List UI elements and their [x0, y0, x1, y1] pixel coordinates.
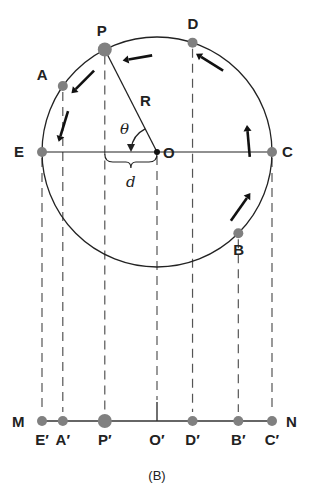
label-B: B: [233, 241, 244, 258]
label-D: D: [188, 15, 199, 32]
displacement-brace: [105, 154, 157, 168]
projected-label-C: C′: [265, 431, 280, 448]
label-N: N: [286, 413, 297, 430]
projected-point-D: [188, 416, 198, 426]
projected-label-D: D′: [185, 431, 200, 448]
label-M: M: [12, 413, 25, 430]
theta-arrowhead: [127, 144, 135, 152]
projected-point-P: [98, 414, 112, 428]
label-P: P: [97, 22, 107, 39]
projected-label-B: B′: [231, 431, 246, 448]
center-point-O: [154, 149, 160, 155]
point-C: [267, 147, 277, 157]
projected-point-E: [37, 416, 47, 426]
projected-label-O: O′: [149, 431, 165, 448]
label-theta: θ: [120, 120, 129, 138]
point-P: [98, 43, 112, 57]
rotation-arrow-upper-right: [196, 54, 223, 71]
projected-label-P: P′: [98, 431, 112, 448]
label-O: O: [163, 144, 175, 161]
projected-point-C: [267, 416, 277, 426]
projected-label-E: E′: [35, 431, 49, 448]
label-A: A: [37, 66, 48, 83]
point-E: [37, 147, 47, 157]
label-E: E: [14, 143, 24, 160]
label-C: C: [282, 143, 293, 160]
projected-point-B: [233, 416, 243, 426]
rotation-arrow-top: [123, 55, 153, 63]
point-A: [58, 81, 68, 91]
figure-caption: (B): [148, 468, 165, 483]
point-D: [188, 38, 198, 48]
projected-point-A: [58, 416, 68, 426]
rotation-arrow-upper-left: [71, 71, 94, 94]
circle-points: PAEDCB: [14, 15, 293, 259]
rotation-arrow-lower-right: [231, 193, 251, 221]
rotation-arrows: [57, 54, 252, 221]
circular-motion-projection-diagram: PAEDCB E′A′P′O′D′B′C′ O R θ d M N (B): [0, 0, 313, 494]
label-R: R: [140, 92, 151, 109]
point-B: [233, 228, 243, 238]
projected-label-A: A′: [56, 431, 71, 448]
label-d: d: [126, 173, 136, 191]
